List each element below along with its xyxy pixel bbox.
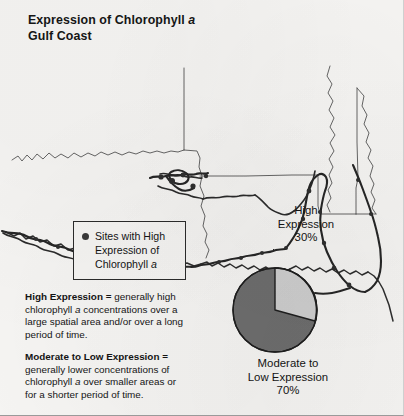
legend-label: Sites with High Expression of Chlorophyl… xyxy=(95,229,165,272)
legend-line-3: Chlorophyll a xyxy=(95,257,165,271)
site-dot xyxy=(204,174,208,178)
definition-body: large spatial area and/or over a long xyxy=(25,316,183,327)
definition-body: chlorophyll xyxy=(25,376,75,387)
pie-label-line-1: Moderate to xyxy=(208,357,368,371)
site-dot xyxy=(34,237,38,241)
pie-label-value: 30% xyxy=(246,231,366,245)
title-line-2: Gulf Coast xyxy=(28,28,195,44)
pie-label-line-2: Low Expression xyxy=(208,371,368,385)
legend-line-3-text: Chlorophyll xyxy=(95,258,151,270)
definition-body: period of time. xyxy=(25,329,88,340)
definition-term: High Expression = xyxy=(25,291,111,302)
definition-body: chlorophyll xyxy=(25,304,75,315)
definition-high-expression: High Expression = generally highchloroph… xyxy=(25,291,205,342)
definition-body: generally lower concentrations of xyxy=(25,364,169,375)
pie-label-line-2: Expression xyxy=(246,218,366,232)
map-legend: Sites with High Expression of Chlorophyl… xyxy=(73,221,186,280)
site-dot xyxy=(356,178,360,182)
definition-body: over smaller areas or xyxy=(80,376,176,387)
pie-label-value: 70% xyxy=(208,384,368,398)
site-marker-icon xyxy=(82,233,89,240)
site-dot xyxy=(181,173,186,178)
title-line-1: Expression of Chlorophyll a xyxy=(28,12,195,28)
legend-entry: Sites with High Expression of Chlorophyl… xyxy=(74,222,185,272)
site-dot xyxy=(169,178,175,184)
page-title: Expression of Chlorophyll a Gulf Coast xyxy=(28,12,195,44)
definition-term: Moderate to Low Expression = xyxy=(25,351,168,362)
legend-italic-a: a xyxy=(151,258,157,270)
site-dot xyxy=(307,189,312,194)
definition-body: generally high xyxy=(111,291,175,302)
definition-body: concentrations over a xyxy=(80,304,177,315)
title-text: Expression of Chlorophyll xyxy=(28,13,188,27)
legend-line-2: Expression of xyxy=(95,243,165,257)
pie-label-moderate-low-expression: Moderate to Low Expression 70% xyxy=(208,357,368,398)
pie-label-line-1: High xyxy=(246,204,366,218)
site-dot xyxy=(158,174,163,179)
legend-line-1: Sites with High xyxy=(95,229,165,243)
title-italic-a: a xyxy=(188,13,195,27)
site-dot xyxy=(190,183,195,188)
definition-body: for a shorter period of time. xyxy=(25,389,144,400)
pie-label-high-expression: High Expression 30% xyxy=(246,204,366,245)
site-dot xyxy=(56,245,60,249)
definitions-block: High Expression = generally highchloroph… xyxy=(25,291,205,402)
definition-moderate-low-expression: Moderate to Low Expression =generally lo… xyxy=(25,351,205,402)
pie-chart: High Expression 30% Moderate to Low Expr… xyxy=(208,200,398,410)
figure-chlorophyll-gulf-coast: Expression of Chlorophyll a Gulf Coast S… xyxy=(0,0,404,416)
pie-chart-svg xyxy=(230,265,320,355)
